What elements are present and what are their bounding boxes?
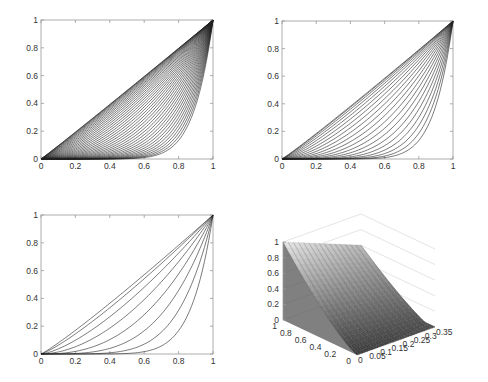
x-tick-label: 0.8: [173, 161, 185, 171]
y-tick-label: 0.4: [26, 98, 38, 108]
x-tick-label: 0.8: [413, 161, 425, 171]
x-tick-label: 0.2: [310, 161, 322, 171]
y-tick-label: 0.8: [26, 238, 38, 248]
data-curve: [41, 215, 213, 354]
data-curve: [282, 21, 453, 159]
data-curve: [282, 21, 453, 159]
x-tick-label: 0.2: [69, 161, 81, 171]
y-tick-label: 1: [272, 321, 277, 331]
data-curve: [282, 21, 453, 159]
data-curve: [282, 21, 453, 159]
data-curve: [282, 21, 453, 159]
x-tick-label: 0.35: [436, 327, 453, 337]
data-curve: [282, 21, 453, 159]
y-tick-label: 0.8: [267, 44, 279, 54]
y-tick-label: 0.6: [26, 71, 38, 81]
x-tick-label: 1: [451, 161, 456, 171]
y-tick-label: 0.6: [267, 71, 279, 81]
data-curve: [282, 21, 453, 159]
data-curve: [282, 21, 453, 159]
plot-top-right: 00.20.40.60.8100.20.40.60.81: [267, 16, 455, 171]
x-tick-label: 0.6: [138, 161, 150, 171]
data-curve: [41, 215, 213, 354]
data-curve: [41, 215, 213, 354]
z-tick-label: 1: [274, 237, 279, 247]
y-tick-label: 1: [33, 210, 38, 220]
x-tick-label: 0.4: [104, 356, 116, 366]
z-tick-label: 0.6: [267, 268, 279, 278]
data-curve: [282, 21, 453, 159]
y-tick-label: 0.2: [324, 349, 336, 359]
data-curve: [282, 21, 453, 159]
y-tick-label: 0.6: [26, 266, 38, 276]
x-tick-label: 0: [39, 161, 44, 171]
x-tick-label: 0.4: [104, 161, 116, 171]
data-curve: [282, 21, 453, 159]
data-curve: [282, 21, 453, 159]
y-tick-label: 0: [33, 349, 38, 359]
data-curve: [282, 21, 453, 159]
data-curve: [41, 215, 213, 354]
data-curve: [41, 215, 213, 354]
data-curve: [282, 21, 453, 159]
y-tick-label: 0.4: [26, 293, 38, 303]
data-curve: [282, 21, 453, 159]
x-tick-label: 0: [280, 161, 285, 171]
figure: 00.20.40.60.8100.20.40.60.81 00.20.40.60…: [0, 0, 488, 382]
x-tick-label: 0.4: [344, 161, 356, 171]
axes-box: [41, 215, 213, 354]
y-tick-label: 0.2: [26, 126, 38, 136]
y-tick-label: 0.8: [280, 328, 292, 338]
y-tick-label: 0.4: [267, 99, 279, 109]
z-tick-label: 0.8: [267, 253, 279, 263]
data-curve: [282, 21, 453, 159]
y-tick-label: 0: [274, 154, 279, 164]
y-tick-label: 1: [274, 16, 279, 26]
data-curve: [282, 21, 453, 159]
axes-box: [282, 21, 453, 159]
x-tick-label: 0.2: [69, 356, 81, 366]
x-tick-label: 0: [358, 355, 363, 365]
x-tick-label: 1: [211, 356, 216, 366]
plot-top-left: 00.20.40.60.8100.20.40.60.81: [26, 15, 215, 171]
y-tick-label: 0.6: [295, 335, 307, 345]
data-curve: [41, 215, 213, 354]
x-tick-label: 0.6: [379, 161, 391, 171]
data-curve: [282, 21, 453, 159]
plot-surface-3d: 00.20.40.60.8110.80.60.40.2000.050.10.15…: [267, 214, 453, 366]
data-curve: [282, 21, 453, 159]
y-tick-label: 0: [346, 356, 351, 366]
y-tick-label: 0.4: [310, 342, 322, 352]
z-tick-label: 0.4: [267, 284, 279, 294]
y-tick-label: 0.2: [267, 126, 279, 136]
plot-bottom-left: 00.20.40.60.8100.20.40.60.81: [26, 210, 215, 366]
z-tick-label: 0.2: [267, 299, 279, 309]
x-tick-label: 0.8: [173, 356, 185, 366]
data-curve: [282, 21, 453, 159]
y-tick-label: 0.2: [26, 321, 38, 331]
x-tick-label: 1: [211, 161, 216, 171]
y-tick-label: 0: [33, 154, 38, 164]
x-tick-label: 0.6: [138, 356, 150, 366]
y-tick-label: 1: [33, 15, 38, 25]
data-curve: [41, 215, 213, 354]
data-curve: [41, 215, 213, 354]
x-tick-label: 0: [39, 356, 44, 366]
y-tick-label: 0.8: [26, 43, 38, 53]
